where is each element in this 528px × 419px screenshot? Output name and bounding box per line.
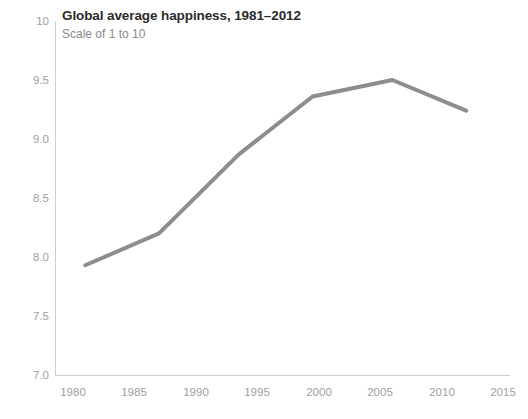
x-tick-label: 2010 xyxy=(412,386,472,398)
x-tick-label: 2005 xyxy=(350,386,410,398)
x-tick-label: 1995 xyxy=(227,386,287,398)
x-tick-label: 1980 xyxy=(43,386,103,398)
happiness-line-chart: Global average happiness, 1981–2012 Scal… xyxy=(0,0,528,419)
x-axis-tick-labels: 1980 1985 1990 1995 2000 2005 2010 2015 xyxy=(0,0,528,419)
x-tick-label: 1985 xyxy=(104,386,164,398)
x-tick-label: 2015 xyxy=(473,386,528,398)
x-tick-label: 1990 xyxy=(166,386,226,398)
x-tick-label: 2000 xyxy=(289,386,349,398)
